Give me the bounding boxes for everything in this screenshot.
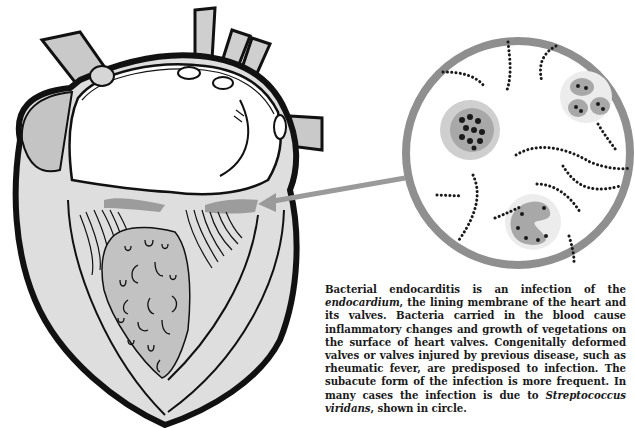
white-blood-cell-icon <box>440 100 500 160</box>
caption-text: Bacterial endocarditis is an infection o… <box>325 283 626 415</box>
phagocyte-cluster-icon <box>560 71 612 123</box>
heart-icon <box>16 8 322 425</box>
caption-part-1: Bacterial endocarditis is an infection o… <box>325 283 626 295</box>
caption-term-endocardium: endocardium <box>325 296 400 308</box>
phagocyte-bottom-icon <box>505 194 561 250</box>
caption-part-2: , the lining membrane of the heart and i… <box>325 296 626 400</box>
caption-part-3: , shown in circle. <box>371 402 467 414</box>
magnification-circle <box>406 41 630 265</box>
